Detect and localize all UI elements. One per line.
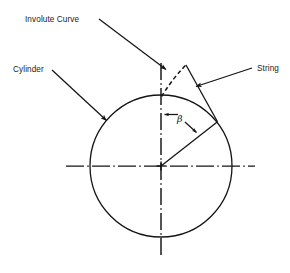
involute-curve-diagram: Involute Curve Cylinder String β	[0, 0, 290, 273]
label-involute-curve: Involute Curve	[25, 16, 79, 24]
leader-lines	[52, 19, 252, 121]
leader-line-cylinder	[52, 70, 107, 121]
string-line	[186, 65, 218, 122]
centerlines	[66, 63, 255, 258]
radius-line	[161, 122, 218, 166]
label-string: String	[257, 65, 279, 73]
leader-line-string	[196, 68, 252, 87]
involute-curve	[162, 65, 187, 97]
leader-line-involute-curve	[99, 19, 166, 70]
figure-canvas	[0, 0, 290, 273]
label-cylinder: Cylinder	[13, 66, 44, 74]
beta-arrow-right	[185, 122, 197, 133]
label-angle-beta: β	[177, 113, 183, 124]
